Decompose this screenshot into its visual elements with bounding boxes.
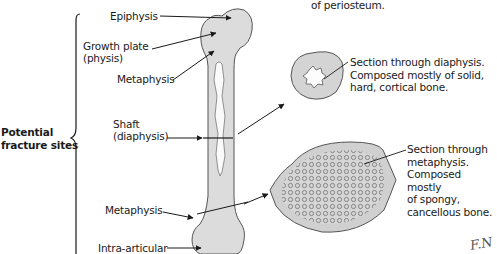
label-metaphysis-upper: Metaphysis	[117, 73, 174, 85]
growth-plate-line1: Growth plate	[83, 40, 149, 52]
label-intra-articular: Intra-articular	[98, 242, 167, 254]
fracture-sites-line1: Potential	[1, 126, 78, 139]
diagram-canvas: Potential fracture sites Epiphysis Growt…	[0, 0, 497, 254]
diaphysis-desc-line3: hard, cortical bone.	[350, 81, 485, 94]
label-shaft: Shaft (diaphysis)	[113, 118, 168, 142]
metaphysis-desc-line3: Composed mostly	[407, 168, 497, 193]
shaft-line2: (diaphysis)	[113, 130, 168, 142]
periosteum-caption: of periosteum.	[311, 0, 385, 11]
growth-plate-line2: (physis)	[83, 52, 149, 64]
metaphysis-desc-line4: of spongy,	[407, 193, 497, 206]
label-growth-plate: Growth plate (physis)	[83, 40, 149, 64]
label-metaphysis-lower: Metaphysis	[105, 204, 162, 216]
shaft-line1: Shaft	[113, 118, 168, 130]
diaphysis-desc-line2: Composed mostly of solid,	[350, 69, 485, 82]
diaphysis-cross-section	[291, 52, 343, 99]
metaphysis-desc-line2: metaphysis.	[407, 156, 497, 169]
label-epiphysis: Epiphysis	[110, 10, 158, 22]
metaphysis-section-description: Section through metaphysis. Composed mos…	[407, 143, 497, 218]
diaphysis-desc-line1: Section through diaphysis.	[350, 56, 485, 69]
diaphysis-section-description: Section through diaphysis. Composed most…	[350, 56, 485, 94]
metaphysis-cross-section	[270, 142, 396, 232]
fracture-sites-label: Potential fracture sites	[1, 126, 78, 152]
metaphysis-desc-line5: cancellous bone.	[407, 206, 497, 219]
fracture-sites-line2: fracture sites	[1, 139, 78, 152]
metaphysis-desc-line1: Section through	[407, 143, 497, 156]
